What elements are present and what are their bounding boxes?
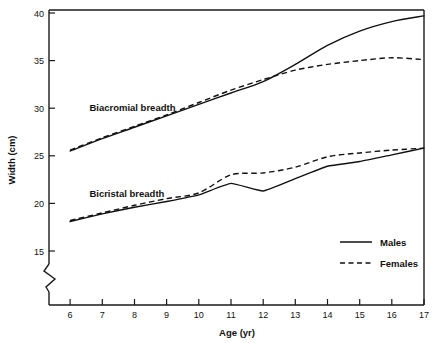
y-tick-label-35: 35: [34, 56, 44, 66]
x-tick-label-7: 7: [100, 310, 105, 320]
chart-legend: Males Females: [340, 237, 418, 269]
x-tick-label-13: 13: [290, 310, 300, 320]
y-axis-title: Width (cm): [6, 136, 17, 185]
y-tick-marks: [49, 13, 55, 251]
x-tick-label-8: 8: [132, 310, 137, 320]
y-tick-label-15: 15: [34, 247, 44, 257]
y-tick-label-30: 30: [34, 104, 44, 114]
x-tick-label-17: 17: [419, 310, 429, 320]
chart-figure: 40 35 30 25 20 15 Width (cm) 6 7 8 9 10: [0, 0, 441, 343]
series-line-bicristal-males: [70, 148, 424, 221]
x-tick-label-10: 10: [194, 310, 204, 320]
y-tick-label-20: 20: [34, 199, 44, 209]
y-axis-break-icon: [44, 264, 55, 292]
x-tick-label-6: 6: [68, 310, 73, 320]
x-tick-label-11: 11: [226, 310, 235, 320]
x-tick-label-14: 14: [322, 310, 332, 320]
y-tick-label-40: 40: [34, 9, 44, 19]
annotation-biacromial-breadth: Biacromial breadth: [89, 102, 175, 113]
line-chart-canvas: 40 35 30 25 20 15 Width (cm) 6 7 8 9 10: [0, 0, 441, 343]
x-tick-marks: [70, 299, 424, 305]
y-tick-label-25: 25: [34, 151, 44, 161]
x-tick-label-9: 9: [164, 310, 169, 320]
x-axis-title: Age (yr): [219, 327, 255, 338]
annotation-bicristal-breadth: Bicristal breadth: [89, 188, 164, 199]
x-tick-label-16: 16: [387, 310, 397, 320]
x-tick-label-15: 15: [355, 310, 365, 320]
legend-label-males: Males: [380, 237, 406, 248]
x-tick-label-12: 12: [258, 310, 268, 320]
legend-label-females: Females: [380, 258, 418, 269]
